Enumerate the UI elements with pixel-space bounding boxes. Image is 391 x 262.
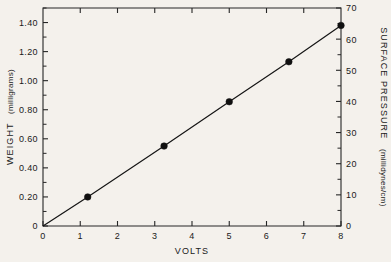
- x-tick-label: 2: [115, 231, 120, 241]
- y-tick-label: 0: [33, 221, 38, 231]
- y2-tick-label: 20: [346, 159, 357, 169]
- y2-tick-label: 10: [346, 190, 357, 200]
- y-tick-label: 0.80: [19, 105, 38, 115]
- y2-tick-label: 70: [346, 3, 357, 13]
- y2-tick-label: 40: [346, 97, 357, 107]
- data-point-marker: [338, 22, 345, 29]
- x-tick-label: 5: [227, 231, 232, 241]
- y2-tick-label: 60: [346, 35, 357, 45]
- left-axis-title-unit: (milligrams): [6, 69, 15, 114]
- y2-tick-label: 30: [346, 128, 357, 138]
- y-tick-label: 0.60: [19, 134, 38, 144]
- x-tick-label: 8: [338, 231, 343, 241]
- data-point-marker: [161, 143, 168, 150]
- x-tick-label: 6: [264, 231, 269, 241]
- y-tick-label: 0.20: [19, 192, 38, 202]
- right-axis-title: SURFACE PRESSURE (millidynes/cm): [379, 27, 389, 207]
- x-tick-label: 7: [301, 231, 306, 241]
- x-tick-label: 0: [40, 231, 45, 241]
- y-tick-label: 1.00: [19, 76, 38, 86]
- figure-background: [0, 0, 391, 262]
- data-point-marker: [84, 194, 91, 201]
- y2-tick-label: 50: [346, 66, 357, 76]
- x-tick-label: 1: [78, 231, 83, 241]
- data-point-marker: [226, 98, 233, 105]
- y-tick-label: 0.40: [19, 163, 38, 173]
- y-tick-label: 1.20: [19, 47, 38, 57]
- data-point-marker: [286, 58, 293, 65]
- left-axis-title-main: WEIGHT: [5, 123, 15, 165]
- right-axis-title-unit: (millidynes/cm): [379, 149, 388, 207]
- y-tick-label: 1.40: [19, 18, 38, 28]
- x-tick-label: 4: [189, 231, 194, 241]
- chart-figure: 012345678 00.200.400.600.801.001.201.40 …: [0, 0, 391, 262]
- x-axis-title: VOLTS: [175, 246, 209, 256]
- x-tick-label: 3: [152, 231, 157, 241]
- y2-tick-label: 0: [346, 221, 351, 231]
- right-axis-title-main: SURFACE PRESSURE: [379, 27, 389, 139]
- line-chart: 012345678 00.200.400.600.801.001.201.40 …: [0, 0, 391, 262]
